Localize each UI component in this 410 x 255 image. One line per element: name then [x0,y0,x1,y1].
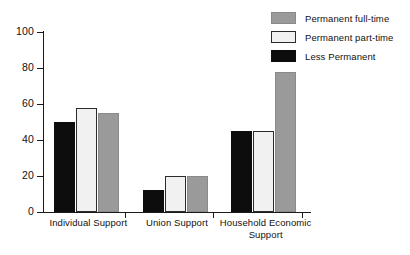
bar-group [54,32,119,212]
legend-item[interactable]: Permanent full-time [271,10,410,26]
bar-group [143,32,208,212]
y-axis-tick-label: 0 [2,205,34,217]
y-axis-tick [37,32,43,33]
bar-chart: 020406080100 Permanent full-timePermanen… [0,0,410,255]
x-axis-line [43,212,311,213]
y-axis-tick [37,212,43,213]
y-axis-tick [37,104,43,105]
x-axis-category-label-line: Household Economic [209,217,322,229]
y-axis-tick-label: 100 [2,25,34,37]
bar[interactable] [54,122,75,212]
x-axis-category-label: Household EconomicSupport [209,217,322,240]
y-axis-tick-label: 80 [2,61,34,73]
y-axis-tick [37,68,43,69]
chart-legend: Permanent full-timePermanent part-timeLe… [271,10,410,67]
legend-swatch [271,31,296,43]
y-axis-tick-label: 20 [2,169,34,181]
bar[interactable] [187,176,208,212]
bar[interactable] [143,190,164,212]
x-axis-category-label-line: Support [209,229,322,241]
y-axis-tick-label: 60 [2,97,34,109]
legend-label: Permanent part-time [305,32,394,43]
legend-swatch [271,12,296,24]
bar[interactable] [165,176,186,212]
y-axis-tick [37,176,43,177]
y-axis-labels: 020406080100 [0,0,34,255]
bar[interactable] [275,72,296,212]
legend-swatch [271,50,296,62]
y-axis-tick [37,140,43,141]
bar[interactable] [253,131,274,212]
bar[interactable] [76,108,97,212]
bar[interactable] [231,131,252,212]
y-axis-tick-label: 40 [2,133,34,145]
legend-item[interactable]: Less Permanent [271,48,410,64]
legend-label: Less Permanent [305,51,376,62]
legend-item[interactable]: Permanent part-time [271,29,410,45]
bar[interactable] [98,113,119,212]
legend-label: Permanent full-time [305,13,389,24]
